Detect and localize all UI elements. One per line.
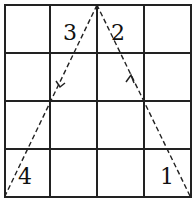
arrow-icons (56, 75, 134, 87)
label-4: 4 (18, 164, 32, 189)
label-2: 2 (111, 20, 125, 45)
label-1: 1 (160, 164, 174, 189)
arrow-up-left-icon (126, 75, 134, 83)
label-3: 3 (63, 20, 77, 45)
grid-diagram: 3 2 4 1 (0, 0, 196, 204)
